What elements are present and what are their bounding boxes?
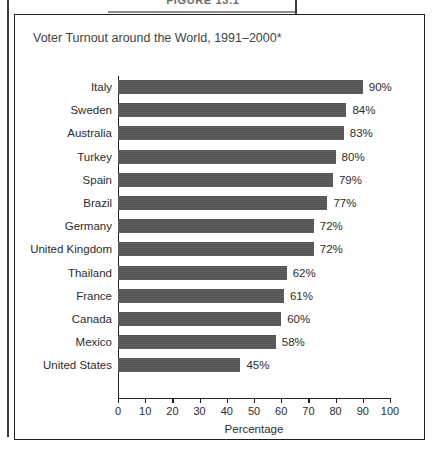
bar-category-label: Sweden (70, 104, 112, 116)
x-axis-tick (118, 398, 119, 403)
bar-value-label: 72% (320, 220, 343, 232)
bar-category-label: Germany (65, 220, 112, 232)
bar (118, 266, 287, 280)
bar-category-label: Spain (83, 174, 112, 186)
bar-category-label: Turkey (77, 151, 112, 163)
x-axis-tick (336, 398, 337, 403)
bar-value-label: 77% (333, 197, 356, 209)
bar-category-label: France (76, 290, 112, 302)
bar-row: United Kingdom72% (118, 242, 390, 256)
x-axis-tick-label: 40 (221, 405, 233, 417)
bar (118, 103, 346, 117)
figure-caption: FIGURE 13.1 (108, 0, 298, 7)
x-axis-tick (363, 398, 364, 403)
bar-value-label: 58% (282, 336, 305, 348)
bar-row: Mexico58% (118, 335, 390, 349)
x-axis-tick-label: 50 (248, 405, 260, 417)
bar-category-label: Australia (67, 127, 112, 139)
bar (118, 173, 333, 187)
x-axis-tick-label: 30 (193, 405, 205, 417)
x-axis-tick-label: 100 (381, 405, 399, 417)
bar-value-label: 84% (352, 104, 375, 116)
bar-chart-plot-area: Italy90%Sweden84%Australia83%Turkey80%Sp… (118, 76, 390, 398)
bar-category-label: Thailand (68, 267, 112, 279)
chart-title: Voter Turnout around the World, 1991–200… (33, 31, 282, 45)
x-axis-tick (390, 398, 391, 403)
page-rule-left (7, 0, 9, 437)
bar-value-label: 62% (293, 267, 316, 279)
x-axis-tick (227, 398, 228, 403)
x-axis-tick-label: 80 (329, 405, 341, 417)
bar-category-label: Italy (91, 81, 112, 93)
bar-row: Spain79% (118, 173, 390, 187)
y-axis-line (118, 76, 119, 398)
x-axis-tick-label: 90 (357, 405, 369, 417)
bar (118, 358, 240, 372)
bar-row: Sweden84% (118, 103, 390, 117)
bar-category-label: Canada (72, 313, 112, 325)
bar (118, 126, 344, 140)
bar-value-label: 90% (369, 81, 392, 93)
bar-row: United States45% (118, 358, 390, 372)
figure-frame: Voter Turnout around the World, 1991–200… (14, 14, 425, 440)
x-axis-title: Percentage (118, 423, 390, 435)
bar-category-label: United States (43, 359, 112, 371)
bar-row: Canada60% (118, 312, 390, 326)
x-axis-tick-label: 0 (115, 405, 121, 417)
bar (118, 80, 363, 94)
x-axis-tick (172, 398, 173, 403)
bar-value-label: 60% (287, 313, 310, 325)
bar-value-label: 61% (290, 290, 313, 302)
bar (118, 289, 284, 303)
bar-category-label: Brazil (83, 197, 112, 209)
x-axis-tick (281, 398, 282, 403)
x-axis-tick (200, 398, 201, 403)
bar-row: Italy90% (118, 80, 390, 94)
bar (118, 242, 314, 256)
x-axis-tick-label: 10 (139, 405, 151, 417)
bar-value-label: 72% (320, 243, 343, 255)
bar (118, 335, 276, 349)
bar (118, 196, 327, 210)
x-axis-tick (308, 398, 309, 403)
bar-value-label: 79% (339, 174, 362, 186)
bar (118, 150, 336, 164)
x-axis-tick (145, 398, 146, 403)
bar-row: Australia83% (118, 126, 390, 140)
bar-row: Germany72% (118, 219, 390, 233)
bar (118, 219, 314, 233)
bar-row: Thailand62% (118, 266, 390, 280)
bar-category-label: Mexico (76, 336, 112, 348)
bar-row: Brazil77% (118, 196, 390, 210)
x-axis-tick-label: 70 (302, 405, 314, 417)
page-rule-top-bar (108, 11, 295, 13)
bar-row: Turkey80% (118, 150, 390, 164)
bar-value-label: 45% (246, 359, 269, 371)
bar-row: France61% (118, 289, 390, 303)
bar-value-label: 80% (342, 151, 365, 163)
bar-value-label: 83% (350, 127, 373, 139)
bar-category-label: United Kingdom (30, 243, 112, 255)
x-axis-tick-label: 60 (275, 405, 287, 417)
bar (118, 312, 281, 326)
x-axis-tick (254, 398, 255, 403)
x-axis-tick-label: 20 (166, 405, 178, 417)
